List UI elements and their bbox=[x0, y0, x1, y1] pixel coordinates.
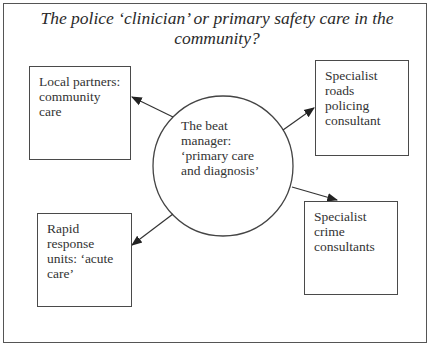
arrow-to-crime-consultants bbox=[292, 187, 337, 200]
node-label: Specialist crime consultants bbox=[314, 209, 397, 254]
node-rapid-response: Rapid response units: ‘acute care’ bbox=[37, 213, 132, 307]
node-roads-policing: Specialist roads policing consultant bbox=[315, 60, 409, 156]
beat-manager-label: The beat manager: ‘primary care and diag… bbox=[181, 118, 291, 178]
node-label: Local partners: community care bbox=[39, 74, 130, 119]
arrow-to-rapid-response bbox=[132, 214, 173, 245]
arrow-to-local-partners bbox=[132, 97, 173, 117]
node-label: Rapid response units: ‘acute care’ bbox=[47, 221, 131, 281]
node-crime-consultants: Specialist crime consultants bbox=[304, 201, 398, 295]
node-local-partners: Local partners: community care bbox=[29, 66, 131, 160]
node-label: Specialist roads policing consultant bbox=[325, 68, 408, 128]
